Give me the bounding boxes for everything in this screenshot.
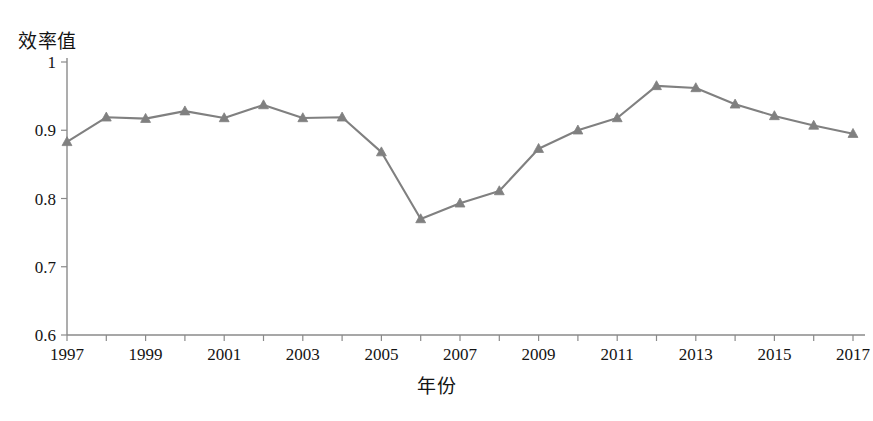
data-point-marker [62, 137, 72, 146]
x-tick-label: 2015 [757, 345, 791, 364]
x-tick-label: 2017 [836, 345, 871, 364]
y-tick-label: 0.7 [35, 258, 57, 277]
series-marker-group [62, 81, 858, 223]
y-tick-label: 0.9 [35, 121, 56, 140]
x-tick-label: 1997 [50, 345, 85, 364]
data-point-marker [180, 106, 190, 115]
chart-plot-area: 0.60.70.80.91 19971999200120032005200720… [0, 0, 873, 421]
data-point-marker [259, 100, 269, 109]
y-tick-label: 0.8 [35, 190, 56, 209]
x-tick-label: 1999 [129, 345, 163, 364]
y-tick-label: 1 [48, 53, 57, 72]
x-tick-label: 2007 [443, 345, 478, 364]
efficiency-line-chart: 效率值 0.60.70.80.91 1997199920012003200520… [0, 0, 873, 421]
x-tick-label: 2011 [601, 345, 634, 364]
y-tick-label: 0.6 [35, 326, 56, 345]
x-tick-label: 2009 [522, 345, 556, 364]
x-tick-label: 2013 [679, 345, 713, 364]
y-axis-tick-group: 0.60.70.80.91 [35, 53, 67, 345]
x-axis-title: 年份 [0, 371, 873, 398]
x-axis-tick-group: 1997199920012003200520072009201120132015… [50, 335, 871, 364]
x-tick-label: 2005 [364, 345, 398, 364]
x-tick-label: 2003 [286, 345, 320, 364]
x-tick-label: 2001 [207, 345, 241, 364]
